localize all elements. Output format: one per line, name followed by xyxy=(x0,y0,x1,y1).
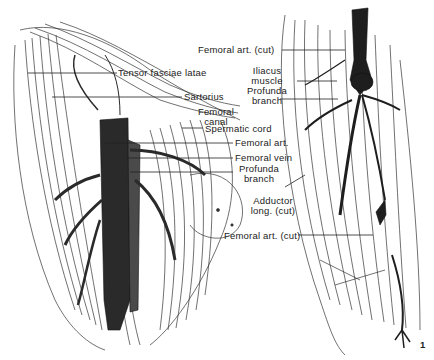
label-femoral-art-cut-top: Femoral art. (cut) xyxy=(198,45,274,55)
label-femoral-vein: Femoral vein xyxy=(235,153,292,163)
anatomy-figure: Tensor fasciae latae Sartorius Femoral c… xyxy=(0,0,434,360)
label-femoral-art: Femoral art. xyxy=(235,138,289,148)
label-adductor-long-line2: long. (cut) xyxy=(248,206,298,216)
label-spermatic-cord: Spermatic cord xyxy=(205,124,272,134)
label-sartorius: Sartorius xyxy=(184,92,224,102)
label-profunda-branch-right-line2: branch xyxy=(238,96,296,106)
label-profunda-branch-left-line2: branch xyxy=(235,174,283,184)
figure-number: 1 xyxy=(420,340,425,350)
right-vessels xyxy=(305,8,410,348)
right-thigh-muscles xyxy=(281,15,420,355)
label-femoral-art-cut-bottom: Femoral art. (cut) xyxy=(224,231,300,241)
label-tensor-fasciae-latae: Tensor fasciae latae xyxy=(118,68,207,78)
